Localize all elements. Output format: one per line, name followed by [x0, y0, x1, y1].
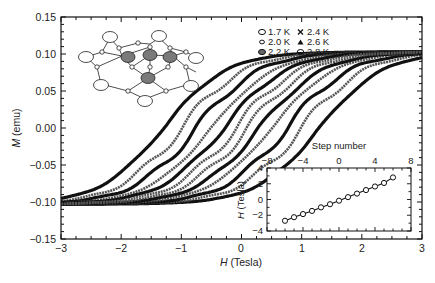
inset-x-tick-label: −4 [298, 155, 309, 166]
inset-x-tick-label: 4 [372, 155, 377, 166]
inset-x-tick-label: 0 [336, 155, 341, 166]
y-tick-label: −0.15 [29, 233, 56, 245]
inset-data-point [291, 215, 296, 220]
y-axis-title: M (emu) [10, 108, 22, 147]
inset-data-point [300, 211, 305, 216]
inset-data-point [372, 184, 377, 189]
inset-data-point [345, 195, 350, 200]
x-tick-label: 2 [359, 242, 365, 254]
inset-data-point [354, 191, 359, 196]
filled-circle-icon [259, 49, 266, 54]
legend-item-2-2k: 2.2 K [259, 46, 291, 57]
open-circle-small-icon [260, 40, 265, 44]
inset-x-tick-label: 8 [408, 155, 413, 166]
x-tick-label: −2 [115, 242, 127, 254]
x-tick-label: 0 [238, 242, 244, 254]
inset-plot: Step number −8 −4 0 4 8 4 2 0 −2 −4 H (T… [235, 140, 414, 236]
inset-y-axis-title: H (Tesla) [235, 181, 246, 219]
inset-y-tick-label: 4 [258, 162, 263, 173]
inset-data-point [363, 187, 368, 192]
svg-text:2.2 K: 2.2 K [268, 46, 291, 57]
inset-y-tick-label: 2 [258, 178, 263, 189]
filled-triangle-icon [298, 40, 304, 45]
inset-y-tick-label: −4 [252, 225, 263, 236]
legend: 1.7 K 2.0 K 2.2 K 2.4 K 2.6 K 2.8 K [259, 26, 330, 57]
y-tick-label: 0.05 [36, 85, 57, 97]
y-tick-labels: 0.15 0.10 0.05 0.00 −0.05 −0.10 −0.15 [29, 11, 56, 245]
y-tick-label: −0.10 [29, 196, 56, 208]
cross-marker-icon [298, 30, 303, 35]
inset-y-tick-label: 0 [258, 194, 263, 205]
inset-data-point [381, 180, 386, 185]
x-tick-label: 3 [419, 242, 425, 254]
inset-x-axis-title: Step number [312, 140, 366, 151]
inset-data-point [318, 205, 323, 210]
svg-text:2.8 K: 2.8 K [307, 46, 330, 57]
open-circle-large-icon [259, 29, 266, 34]
chart-canvas: 0.15 0.10 0.05 0.00 −0.05 −0.10 −0.15 −3… [0, 0, 435, 283]
x-axis-title: H (Tesla) [220, 256, 262, 268]
inset-data-point [390, 175, 395, 180]
inset-data-point [282, 218, 287, 223]
y-tick-label: 0.00 [36, 122, 57, 134]
x-tick-labels: −3 −2 −1 0 1 2 3 [55, 242, 425, 254]
x-tick-label: 1 [299, 242, 305, 254]
inset-x-tick-label: −8 [262, 155, 273, 166]
y-tick-label: 0.15 [36, 11, 57, 23]
inset-data-point [327, 202, 332, 207]
hysteresis-figure: 0.15 0.10 0.05 0.00 −0.05 −0.10 −0.15 −3… [0, 0, 435, 283]
inset-data-point [309, 208, 314, 213]
inset-y-tick-label: −2 [252, 209, 263, 220]
molecular-structure-diagram [79, 31, 204, 107]
x-tick-label: −3 [55, 242, 67, 254]
y-tick-label: −0.05 [29, 159, 56, 171]
x-tick-label: −1 [175, 242, 187, 254]
inset-data-point [336, 198, 341, 203]
y-tick-label: 0.10 [36, 48, 57, 60]
